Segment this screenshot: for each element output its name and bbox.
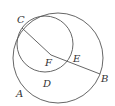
label-b: B xyxy=(101,74,108,84)
geometry-figure: C F E B D A xyxy=(0,0,115,106)
label-f: F xyxy=(45,58,52,68)
label-a: A xyxy=(16,89,23,99)
label-e: E xyxy=(73,54,80,64)
segment-cf xyxy=(22,28,51,55)
label-d: D xyxy=(43,79,51,89)
label-c: C xyxy=(17,15,25,25)
